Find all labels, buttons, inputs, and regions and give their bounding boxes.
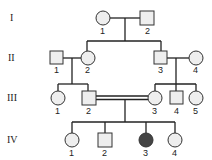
label-iv-4: 4 [172,148,177,158]
generation-label-iii: III [7,92,17,103]
label-iii-3: 3 [152,106,157,116]
individual-iii-3-female [148,91,162,105]
generation-label-ii: II [8,52,15,63]
individual-i-2-male [140,11,154,25]
generation-label-i: I [10,12,13,23]
individual-i-1-female [96,11,110,25]
individual-iv-3-female-affected [139,133,153,147]
label-ii-4: 4 [193,65,198,75]
individual-iv-2-male [98,133,112,147]
individual-iv-4-female [168,133,182,147]
individual-iv-1-female [65,133,79,147]
individual-iii-4-male [170,91,183,104]
individual-ii-4-female [189,51,203,65]
label-ii-2: 2 [85,65,90,75]
individual-ii-2-female [81,51,95,65]
individual-iii-2-male [82,91,96,105]
individual-ii-1-male [50,51,63,64]
label-i-2: 2 [145,26,150,36]
label-iv-2: 2 [102,148,107,158]
label-iv-3: 3 [143,148,148,158]
pedigree-diagram: I II III IV [0,0,212,160]
pedigree-canvas: I II III IV [0,0,212,160]
individual-ii-3-male [154,51,167,64]
individual-iii-1-female [51,91,65,105]
label-iii-1: 1 [55,106,60,116]
individual-iii-5-female [189,91,203,105]
label-ii-3: 3 [158,65,163,75]
generation-label-iv: IV [7,134,18,145]
label-iv-1: 1 [69,148,74,158]
label-i-1: 1 [100,26,105,36]
label-iii-2: 2 [86,106,91,116]
label-iii-4: 4 [174,106,179,116]
label-iii-5: 5 [193,106,198,116]
label-ii-1: 1 [54,65,59,75]
